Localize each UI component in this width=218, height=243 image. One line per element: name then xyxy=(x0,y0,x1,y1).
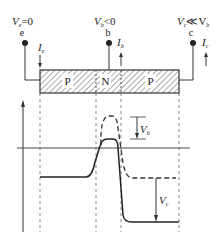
arrow-down-icon xyxy=(154,215,158,222)
region-p-right: P xyxy=(147,75,153,87)
region-p-left: P xyxy=(64,75,70,87)
pnp-diagram: P N P Ve=0 e Ie Vb<0 b Ib Vc≪Vb c Ic xyxy=(0,0,218,243)
arrow-down-icon xyxy=(38,63,42,68)
axis-arrow-icon xyxy=(21,100,25,107)
svg-text:Vb: Vb xyxy=(140,123,150,136)
svg-text:e: e xyxy=(20,27,25,38)
svg-text:Ic: Ic xyxy=(201,36,209,49)
svg-text:c: c xyxy=(189,27,194,38)
region-n: N xyxy=(102,75,110,87)
vc-annotation: Vc xyxy=(154,178,169,222)
base-terminal: Vb<0 b Ib xyxy=(94,15,124,70)
vb-annotation: Vb xyxy=(130,117,150,139)
svg-text:Ie: Ie xyxy=(37,41,45,54)
svg-text:Vc: Vc xyxy=(159,194,169,207)
biased-curve xyxy=(40,139,179,222)
svg-text:Ib: Ib xyxy=(116,36,124,49)
svg-text:b: b xyxy=(106,27,111,38)
arrow-up-icon xyxy=(119,52,123,57)
equilibrium-curve xyxy=(101,116,176,178)
collector-terminal: Vc≪Vb c Ic xyxy=(177,15,209,80)
arrow-down-icon xyxy=(135,133,139,139)
arrow-up-icon xyxy=(204,52,208,57)
